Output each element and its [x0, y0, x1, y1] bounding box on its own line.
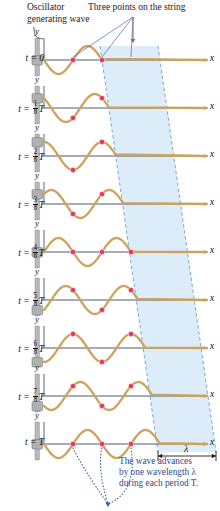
x-axis-label-8: x	[210, 437, 214, 447]
time-label-5: t = 58T	[0, 293, 44, 309]
y-axis-label-8: y	[35, 410, 39, 420]
y-axis-label-0: y	[35, 26, 39, 36]
time-label-2: t = 28T	[0, 149, 44, 165]
three-points-caption: Three points on the string	[88, 2, 220, 14]
time-label-3: t = 38T	[0, 197, 44, 213]
wave-advance-caption: The wave advances by one wavelength λ du…	[119, 456, 219, 490]
y-axis-label-3: y	[35, 170, 39, 180]
y-axis-label-5: y	[35, 266, 39, 276]
time-label-1: t = 18T	[0, 101, 44, 117]
x-axis-label-0: x	[210, 53, 214, 63]
y-axis-label-4: y	[35, 218, 39, 228]
x-axis-label-5: x	[210, 293, 214, 303]
x-axis-label-3: x	[210, 197, 214, 207]
wavelength-label: λ	[184, 443, 188, 454]
x-axis-label-7: x	[210, 389, 214, 399]
y-axis-label-2: y	[35, 122, 39, 132]
y-axis-label-6: y	[35, 314, 39, 324]
y-axis-label-1: y	[35, 74, 39, 84]
x-axis-label-2: x	[210, 149, 214, 159]
time-label-4: t = 48T	[0, 245, 44, 261]
x-axis-label-6: x	[210, 341, 214, 351]
time-label-0: t = 0	[0, 53, 44, 63]
y-axis-label-7: y	[35, 362, 39, 372]
x-axis-label-1: x	[210, 101, 214, 111]
time-label-8: t = T	[0, 437, 44, 447]
time-label-6: t = 68T	[0, 341, 44, 357]
x-axis-label-4: x	[210, 245, 214, 255]
time-label-7: t = 78T	[0, 389, 44, 405]
wave-propagation-figure: Oscillator generating wave Three points …	[0, 0, 220, 511]
